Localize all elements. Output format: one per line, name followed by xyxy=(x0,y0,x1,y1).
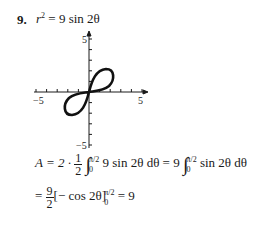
nine-halves-fraction: 92 xyxy=(46,185,54,210)
integrand-2: sin 2θ dθ xyxy=(200,155,247,170)
y-max-label: 5 xyxy=(82,34,87,45)
x-min-label: −5 xyxy=(33,95,44,106)
integrand-1: 9 sin 2θ dθ = 9 xyxy=(102,155,179,170)
area-expr: A = 2 · xyxy=(35,155,71,170)
evaluation-limits: π/20 xyxy=(104,188,114,208)
bracket-expr: [− cos 2θ] xyxy=(54,188,107,203)
half-fraction: 12 xyxy=(74,152,82,177)
solution-line-1: A = 2 · 12 ∫π/20 9 sin 2θ dθ = 9 ∫π/20 s… xyxy=(35,152,247,177)
result: = 9 xyxy=(118,188,135,203)
x-max-label: 5 xyxy=(138,95,143,106)
y-min-label: −5 xyxy=(76,140,87,151)
solution-line-2: = 92[− cos 2θ]π/20 = 9 xyxy=(35,185,135,210)
integral-limits: π/20 xyxy=(89,155,99,175)
integral-limits: π/20 xyxy=(186,155,196,175)
